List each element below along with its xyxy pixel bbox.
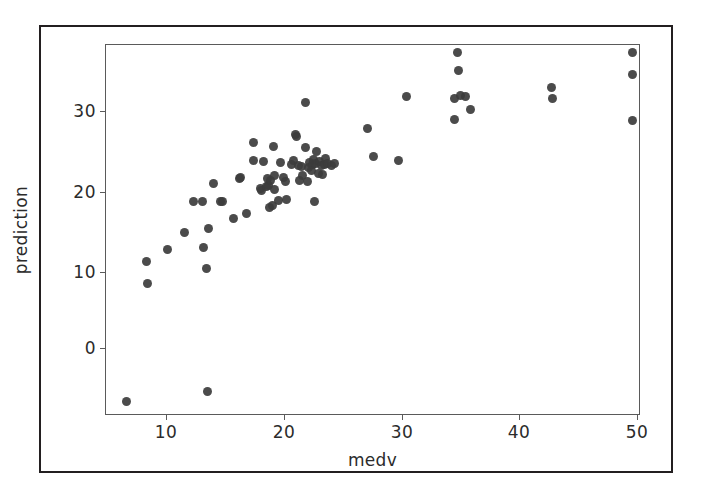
scatter-point [303,177,312,186]
scatter-point [402,92,411,101]
scatter-point [628,48,637,57]
scatter-point [203,387,212,396]
x-tick-mark [284,415,285,420]
scatter-point [394,156,403,165]
plot-axes-frame [105,44,640,415]
scatter-point [198,197,207,206]
scatter-point [143,279,152,288]
y-tick-label-0: 0 [62,338,96,358]
scatter-point [450,115,459,124]
scatter-point [548,94,557,103]
scatter-point [461,92,470,101]
scatter-point [453,48,462,57]
scatter-point [454,66,463,75]
scatter-point [269,142,278,151]
scatter-point [202,264,211,273]
x-tick-label-10: 10 [155,422,178,442]
scatter-point [259,157,268,166]
y-tick-label-10: 10 [62,262,96,282]
scatter-point [236,173,245,182]
scatter-point [229,214,238,223]
scatter-point [142,257,151,266]
y-tick-label-30: 30 [62,101,96,121]
scatter-point [199,243,208,252]
scatter-point [310,197,319,206]
scatter-point [466,105,475,114]
x-tick-mark [637,415,638,420]
scatter-points-layer [106,45,639,414]
scatter-point [301,98,310,107]
scatter-point [242,209,251,218]
scatter-point [163,245,172,254]
x-tick-mark [166,415,167,420]
x-tick-label-50: 50 [626,422,649,442]
scatter-plot-figure: 0 10 20 30 10 20 30 40 50 medv predictio… [0,0,708,499]
scatter-point [547,83,556,92]
x-tick-label-20: 20 [273,422,296,442]
y-axis-label: prediction [11,186,31,274]
scatter-point [312,147,321,156]
scatter-point [249,156,258,165]
scatter-point [628,116,637,125]
x-tick-mark [519,415,520,420]
scatter-point [218,197,227,206]
scatter-point [180,228,189,237]
scatter-point [276,158,285,167]
x-axis-label: medv [105,450,640,470]
scatter-point [189,197,198,206]
scatter-point [122,397,131,406]
scatter-point [209,179,218,188]
x-tick-mark [402,415,403,420]
scatter-point [249,138,258,147]
y-tick-label-20: 20 [62,182,96,202]
scatter-point [281,177,290,186]
scatter-point [363,124,372,133]
scatter-point [282,195,291,204]
scatter-point [330,159,339,168]
scatter-point [270,171,279,180]
scatter-point [204,224,213,233]
scatter-point [318,170,327,179]
scatter-point [292,132,301,141]
x-tick-label-40: 40 [508,422,531,442]
scatter-point [301,143,310,152]
scatter-point [628,70,637,79]
x-tick-label-30: 30 [391,422,414,442]
scatter-point [369,152,378,161]
scatter-point [270,185,279,194]
